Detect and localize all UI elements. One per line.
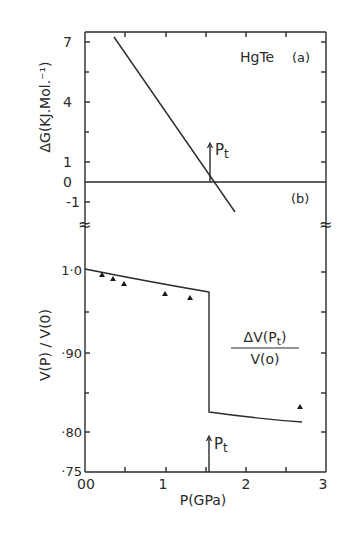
pt-label-lower: Pt	[214, 435, 228, 455]
volume-curve	[85, 269, 302, 422]
xtick-2: 2	[242, 476, 251, 492]
axis-break-right: ≈	[319, 215, 332, 234]
delta-g-line	[114, 37, 235, 212]
data-point-triangle	[110, 276, 116, 281]
ytick-minus1: -1	[66, 194, 80, 210]
ytick-4: 4	[63, 94, 72, 110]
x-axis-label: P(GPa)	[180, 492, 227, 508]
xtick-3: 3	[319, 476, 328, 492]
xtick-1: 1	[159, 476, 168, 492]
panel-label-b: (b)	[291, 191, 309, 206]
ytick-0.90: ·90	[61, 346, 82, 361]
material-label: HgTe	[240, 49, 274, 65]
lower-y-axis-label: V(P) / V(0)	[37, 309, 53, 381]
upper-y-axis-label: ΔG(KJ.Mol.⁻¹)	[37, 61, 53, 152]
ytick-7: 7	[63, 34, 72, 50]
data-point-triangle	[162, 291, 168, 296]
xtick-origin-a: 0	[77, 476, 86, 492]
ytick-0: 0	[63, 174, 72, 190]
pt-label-upper: Pt	[215, 141, 229, 161]
figure: ≈ ≈ 7 4 1 0 -1 1·0 ·90 ·80 ·75 0 0 1 2 3…	[0, 0, 351, 533]
panel-label-a: (a)	[292, 50, 310, 65]
data-point-triangle	[187, 295, 193, 300]
xtick-origin-b: 0	[86, 476, 95, 492]
delta-v-numerator: ΔV(Pt)	[244, 329, 287, 348]
ytick-1.0: 1·0	[61, 263, 82, 278]
data-point-triangle	[297, 404, 303, 409]
ytick-1: 1	[63, 154, 72, 170]
axis-break-left: ≈	[78, 215, 91, 234]
ytick-0.80: ·80	[61, 425, 82, 440]
data-point-triangle	[121, 281, 127, 286]
delta-v-denominator: V(o)	[250, 351, 279, 367]
